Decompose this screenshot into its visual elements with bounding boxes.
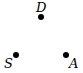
node-label-d: D <box>36 1 46 14</box>
node-label-a: A <box>69 57 78 70</box>
diagram-canvas: D S A <box>0 0 83 73</box>
node-label-s: S <box>4 57 13 70</box>
node-dot-d <box>38 14 44 20</box>
node-dot-s <box>13 52 19 58</box>
